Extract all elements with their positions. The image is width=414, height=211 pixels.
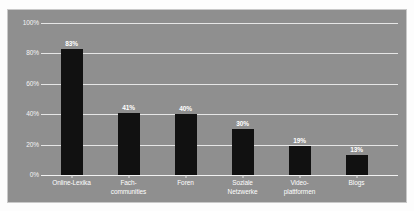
bar[interactable] [61, 49, 83, 175]
bar[interactable] [175, 114, 197, 175]
bar-value-label: 19% [293, 137, 306, 145]
y-axis-tick-label: 0% [9, 171, 39, 178]
x-axis-category-label: Foren [157, 179, 214, 188]
bar-group: 83% [43, 23, 100, 175]
x-axis-tick-mark [71, 175, 72, 178]
bar[interactable] [346, 155, 368, 175]
x-axis-category-line: Fach- [100, 179, 157, 188]
bar-group: 13% [328, 23, 385, 175]
x-axis: Online-LexikaFach-communitiesForenSozial… [41, 179, 398, 203]
x-axis-category-line: Blogs [328, 179, 385, 188]
x-axis-category-line: Video- [271, 179, 328, 188]
x-axis-tick-mark [185, 175, 186, 178]
x-axis-tick-mark [128, 175, 129, 178]
bar-value-label: 41% [122, 104, 135, 112]
y-axis: 100%80%60%40%20%0% [8, 23, 39, 175]
x-axis-category-line: Foren [157, 179, 214, 188]
y-axis-tick-label: 20% [9, 141, 39, 148]
bar-value-label: 83% [65, 40, 78, 48]
bar[interactable] [289, 146, 311, 175]
bar-group: 40% [157, 23, 214, 175]
bar-group: 30% [214, 23, 271, 175]
bar-value-label: 30% [236, 120, 249, 128]
x-axis-tick-mark [299, 175, 300, 178]
x-axis-category-line: Online-Lexika [43, 179, 100, 188]
x-axis-category-label: Online-Lexika [43, 179, 100, 188]
x-axis-category-line: Netzwerke [214, 188, 271, 197]
bar[interactable] [232, 129, 254, 175]
x-axis-category-line: Soziale [214, 179, 271, 188]
y-axis-tick-label: 80% [9, 49, 39, 56]
x-axis-category-line: communities [100, 188, 157, 197]
gridline [41, 175, 398, 176]
bar-value-label: 40% [179, 105, 192, 113]
x-axis-tick-mark [242, 175, 243, 178]
x-axis-category-label: Video-plattformen [271, 179, 328, 196]
x-axis-tick-mark [356, 175, 357, 178]
x-axis-category-label: Blogs [328, 179, 385, 188]
y-axis-tick-label: 40% [9, 110, 39, 117]
bar[interactable] [118, 113, 140, 175]
plot-area: 83%41%40%30%19%13% [41, 23, 398, 175]
x-axis-category-label: SozialeNetzwerke [214, 179, 271, 196]
bar-group: 41% [100, 23, 157, 175]
y-axis-tick-label: 100% [9, 19, 39, 26]
bar-value-label: 13% [350, 146, 363, 154]
y-axis-tick-label: 60% [9, 80, 39, 87]
bar-group: 19% [271, 23, 328, 175]
chart-root: 100%80%60%40%20%0% 83%41%40%30%19%13% On… [0, 0, 414, 211]
chart-panel: 100%80%60%40%20%0% 83%41%40%30%19%13% On… [7, 9, 407, 203]
x-axis-category-line: plattformen [271, 188, 328, 197]
x-axis-category-label: Fach-communities [100, 179, 157, 196]
